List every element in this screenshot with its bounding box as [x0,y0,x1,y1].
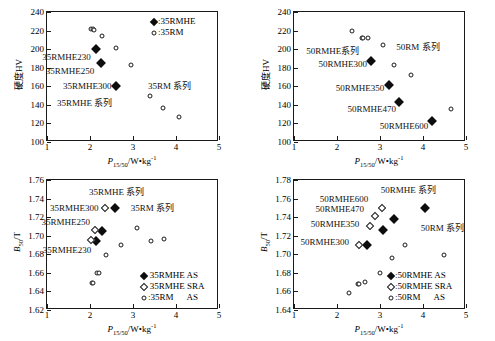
y-tick-bottom-right-4 [294,236,298,237]
annotation-bottom-left-4: 35RM 系列 [131,203,174,213]
annotation-bottom-right-5: 50RM 系列 [421,223,464,233]
y-tick-top-right-2 [294,105,298,106]
y-tick-top-left-1 [47,123,51,124]
data-point-bottom-right-s2-6 [403,242,408,247]
y-tick-bottom-left-7 [47,180,51,181]
y-tick-label-bottom-right-3: 1.70 [275,250,291,259]
x-tick-label-bottom-left-2: 3 [131,311,136,320]
y-tick-bottom-right-6 [294,199,298,200]
data-point-top-left-s1-6 [148,93,153,98]
data-point-bottom-right-s2-3 [363,279,368,284]
data-point-top-right-s1-4 [381,43,386,48]
y-tick-top-right-4 [294,68,298,69]
panel-top-right: 1001201401601802002202401234550RMHE系列50R… [247,0,495,170]
y-tick-top-left-2 [47,105,51,106]
x-tick-bottom-left-2 [133,304,134,308]
annotation-top-right-3: 50RMHE470 [347,104,396,114]
annotation-top-right-1: 50RMHE300 [319,59,368,69]
data-point-bottom-right-s0-1 [389,214,399,224]
x-tick-bottom-left-4 [219,304,220,308]
legend-item-top-left-1: :35RM [149,27,196,38]
y-tick-label-top-right-0: 100 [278,138,292,147]
y-tick-label-bottom-left-4: 1.70 [28,231,44,240]
y-tick-label-top-left-3: 160 [31,82,45,91]
data-point-bottom-left-s1-0 [101,204,109,212]
data-point-top-left-s1-8 [177,114,182,119]
x-tick-label-bottom-left-3: 4 [174,311,179,320]
panel-top-left: 1001201401601802002202401234535RMHE23035… [0,0,248,170]
legend-marker-2-icon [386,293,395,302]
y-tick-label-top-right-3: 160 [278,82,292,91]
y-tick-bottom-right-7 [294,180,298,181]
legend-label-top-left-1: :35RM [158,27,184,38]
x-tick-top-right-0 [294,136,295,140]
annotation-top-right-4: 50RMHE600 [380,121,429,131]
y-tick-label-bottom-left-3: 1.68 [28,250,44,259]
plot-area-bottom-right: 1.641.661.681.701.721.741.761.781234550R… [294,180,464,308]
x-tick-label-bottom-right-0: 1 [292,311,297,320]
x-tick-label-bottom-left-4: 5 [217,311,222,320]
data-point-top-right-s1-6 [408,73,413,78]
y-tick-top-right-7 [294,12,298,13]
x-tick-label-top-right-1: 2 [335,143,340,152]
x-tick-bottom-right-2 [380,304,381,308]
annotation-top-right-2: 50RMHE350 [336,83,385,93]
data-point-bottom-left-s2-3 [96,271,101,276]
y-tick-bottom-left-6 [47,199,51,200]
legend-item-bottom-left-2: :35RM AS [139,292,205,303]
plot-area-top-left: 1001201401601802002202401234535RMHE23035… [47,12,217,140]
data-point-top-right-s1-0 [350,29,355,34]
legend-marker-0-icon [149,17,158,26]
data-point-bottom-right-s2-0 [347,290,352,295]
data-point-bottom-left-s2-8 [161,236,166,241]
y-tick-label-bottom-right-4: 1.72 [275,231,291,240]
x-tick-top-right-1 [337,136,338,140]
legend-marker-0-icon [139,271,148,280]
x-tick-bottom-left-3 [176,304,177,308]
legend-item-bottom-right-2: :50RM AS [386,292,452,303]
data-point-top-left-s1-2 [92,27,97,32]
x-tick-label-top-left-3: 4 [174,143,179,152]
data-point-top-left-s0-2 [111,81,121,91]
plot-area-top-right: 1001201401601802002202401234550RMHE系列50R… [294,12,464,140]
y-tick-label-bottom-left-0: 1.62 [28,306,44,315]
plot-frame-top-left: 1001201401601802002202401234535RMHE23035… [46,11,218,141]
annotation-top-right-0: 50RMHE系列 [306,46,359,56]
plot-frame-top-right: 1001201401601802002202401234550RMHE系列50R… [293,11,465,141]
annotation-bottom-right-3: 50RMHE350 [311,219,360,229]
y-tick-label-bottom-right-5: 1.74 [275,213,291,222]
x-tick-label-top-right-3: 4 [421,143,426,152]
data-point-bottom-right-s0-0 [420,203,430,213]
data-point-bottom-right-s2-7 [441,252,446,257]
y-tick-bottom-left-2 [47,273,51,274]
data-point-top-left-s0-1 [96,58,106,68]
x-tick-label-top-left-2: 3 [131,143,136,152]
x-tick-top-left-2 [133,136,134,140]
legend-marker-0-icon [386,271,395,280]
data-point-bottom-left-s2-1 [91,280,96,285]
x-axis-title-top-right: P15/50/W•kg-1 [293,154,465,168]
figure-scatter-panels: 1001201401601802002202401234535RMHE23035… [0,0,495,341]
legend-marker-2-icon [139,293,148,302]
y-tick-label-top-right-1: 120 [278,119,292,128]
annotation-bottom-right-4: 50RMHE300 [301,237,350,247]
data-point-top-right-s1-3 [365,35,370,40]
data-point-bottom-right-s1-2 [366,222,374,230]
y-tick-top-right-6 [294,31,298,32]
y-tick-label-top-left-4: 180 [31,63,45,72]
legend-label-top-left-0: :35RMHE [158,16,196,27]
y-tick-top-left-6 [47,31,51,32]
x-tick-label-bottom-right-3: 4 [421,311,426,320]
legend-label-bottom-right-2: :50RM AS [395,292,445,303]
y-axis-title-top-right: 硬度HV [259,45,272,105]
annotation-bottom-right-1: 50RMHE600 [320,194,369,204]
legend-marker-1-icon [139,282,148,291]
x-tick-label-top-left-0: 1 [45,143,50,152]
data-point-top-right-s0-1 [384,80,394,90]
y-tick-label-bottom-right-1: 1.66 [275,287,291,296]
data-point-bottom-right-s2-4 [377,271,382,276]
data-point-bottom-right-s2-2 [357,281,362,286]
x-axis-title-bottom-left: P15/50/W•kg-1 [46,322,218,336]
y-tick-label-bottom-left-2: 1.66 [28,268,44,277]
y-tick-bottom-left-1 [47,291,51,292]
